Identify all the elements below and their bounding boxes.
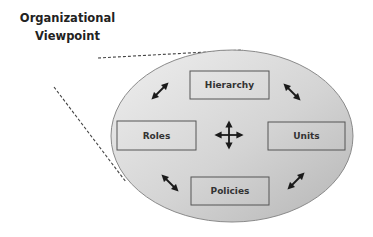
node-label-units: Units bbox=[268, 122, 345, 150]
node-label-hierarchy: Hierarchy bbox=[190, 71, 269, 99]
diagram-title: Organizational Viewpoint bbox=[10, 9, 125, 45]
node-label-policies: Policies bbox=[191, 177, 269, 205]
title-line-2: Viewpoint bbox=[10, 27, 125, 45]
title-line-1: Organizational bbox=[10, 9, 125, 27]
node-label-roles: Roles bbox=[117, 121, 196, 150]
